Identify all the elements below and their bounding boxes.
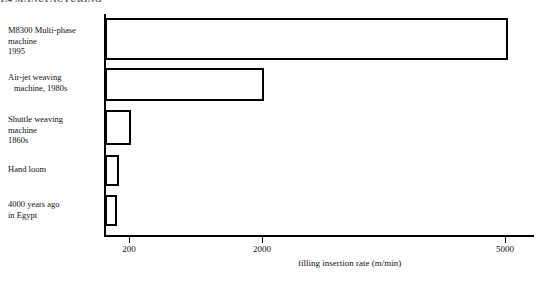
- category-label-line: Hand loom: [8, 164, 100, 175]
- category-label-line: Shuttle weaving: [8, 114, 100, 125]
- category-label-line: machine: [8, 36, 100, 47]
- category-label-egypt: 4000 years ago in Egypt: [8, 199, 100, 220]
- category-label-hand-loom: Hand loom: [8, 164, 100, 175]
- bar-shuttle: [105, 110, 131, 145]
- bar-hand-loom: [105, 155, 119, 186]
- x-tick-2000: [262, 237, 263, 243]
- category-label-line: 1995: [8, 46, 100, 57]
- chart-page: 1.4 MANUFACTURING M8300 Multi-phase mach…: [0, 0, 544, 283]
- bar-m8300: [105, 18, 508, 60]
- category-label-line: in Egypt: [8, 210, 100, 221]
- category-label-line: Air-jet weaving: [8, 72, 100, 83]
- bar-egypt: [105, 195, 117, 226]
- category-label-line: 1860s: [8, 135, 100, 146]
- x-tick-5000: [505, 237, 506, 243]
- x-axis-title: filling insertion rate (m/min): [298, 258, 401, 269]
- category-label-m8300: M8300 Multi-phase machine 1995: [8, 25, 100, 57]
- x-tick-200: [129, 237, 130, 243]
- category-label-line: M8300 Multi-phase: [8, 25, 100, 36]
- x-tick-label-200: 200: [122, 244, 136, 255]
- bar-chart-plot: M8300 Multi-phase machine 1995 Air-jet w…: [0, 0, 544, 283]
- bar-air-jet: [105, 68, 264, 101]
- category-label-line: machine, 1980s: [8, 83, 100, 94]
- category-label-shuttle: Shuttle weaving machine 1860s: [8, 114, 100, 146]
- x-tick-label-2000: 2000: [253, 244, 271, 255]
- x-axis-line: [104, 235, 534, 237]
- category-label-line: 4000 years ago: [8, 199, 100, 210]
- category-label-line: machine: [8, 125, 100, 136]
- x-tick-label-5000: 5000: [496, 244, 514, 255]
- category-label-air-jet: Air-jet weaving machine, 1980s: [8, 72, 100, 93]
